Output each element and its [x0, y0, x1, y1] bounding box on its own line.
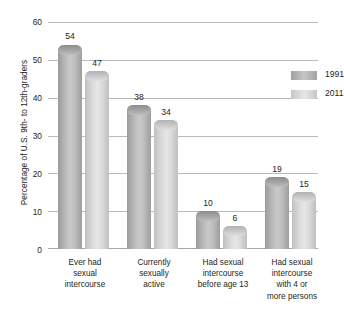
bar-value-label-1991-g3: 10	[193, 198, 223, 208]
x-axis-label-line: active	[114, 279, 194, 290]
x-axis-label-line: before age 13	[183, 279, 263, 290]
bar-value-label-2011-g2: 34	[151, 107, 181, 117]
x-axis-label-line: Currently	[114, 257, 194, 268]
bar-body	[127, 110, 151, 249]
bar-value-label-2011-g3: 6	[220, 213, 250, 223]
bar-2011-had-sexual-intercourse-with-4-or-more-persons	[292, 192, 316, 249]
legend-swatch-2011	[291, 90, 317, 99]
x-axis-label-line: sexual	[45, 268, 125, 279]
bar-body	[265, 182, 289, 249]
y-tick-label-30: 30	[20, 131, 42, 141]
x-axis-label-line: more persons	[252, 291, 332, 302]
bar-cap	[196, 211, 220, 221]
bar-1991-had-sexual-intercourse-before-age-13	[196, 211, 220, 249]
plot-area: 54 47 38 34 10 6 19 15 1991 2011	[48, 22, 318, 249]
bar-value-label-1991-g1: 54	[55, 31, 85, 41]
y-tick-label-20: 20	[20, 169, 42, 179]
x-axis-label-line: intercourse	[252, 268, 332, 279]
legend-swatch-1991	[291, 71, 317, 80]
bar-1991-had-sexual-intercourse-with-4-or-more-persons	[265, 177, 289, 249]
x-axis-label-had-sexual-intercourse-with-4-or-more-persons: Had sexual intercourse with 4 or more pe…	[252, 257, 332, 302]
bar-value-label-2011-g1: 47	[82, 58, 112, 68]
bar-cap	[223, 226, 247, 236]
bar-body	[85, 76, 109, 249]
legend-label-2011: 2011	[325, 88, 343, 98]
y-tick-label-40: 40	[20, 93, 42, 103]
bar-cap	[265, 177, 289, 187]
y-tick-label-0: 0	[20, 245, 42, 255]
x-axis-label-line: intercourse	[183, 268, 263, 279]
bar-cap	[292, 192, 316, 202]
x-axis-label-line: sexually	[114, 268, 194, 279]
bar-cap	[85, 71, 109, 81]
bar-value-label-2011-g4: 15	[289, 179, 319, 189]
y-tick-label-10: 10	[20, 207, 42, 217]
bar-2011-ever-had-sexual-intercourse	[85, 71, 109, 249]
bar-cap	[127, 105, 151, 115]
bar-value-label-1991-g4: 19	[262, 164, 292, 174]
legend-label-1991: 1991	[325, 69, 344, 79]
bar-body	[58, 50, 82, 249]
x-axis-label-line: Had sexual	[252, 257, 332, 268]
x-axis-label-currently-sexually-active: Currently sexually active	[114, 257, 194, 291]
gridline-60	[48, 22, 318, 23]
bar-1991-currently-sexually-active	[127, 105, 151, 249]
x-axis-label-line: Had sexual	[183, 257, 263, 268]
bar-1991-ever-had-sexual-intercourse	[58, 45, 82, 249]
bar-cap	[154, 120, 178, 130]
x-axis-label-had-sexual-intercourse-before-age-13: Had sexual intercourse before age 13	[183, 257, 263, 291]
bar-body	[154, 125, 178, 249]
bar-value-label-1991-g2: 38	[124, 92, 154, 102]
bar-cap	[58, 45, 82, 55]
bar-2011-currently-sexually-active	[154, 120, 178, 249]
x-axis-label-ever-had-sexual-intercourse: Ever had sexual intercourse	[45, 257, 125, 291]
x-axis-label-line: Ever had	[45, 257, 125, 268]
y-tick-label-50: 50	[20, 55, 42, 65]
y-tick-label-60: 60	[20, 17, 42, 27]
x-axis-label-line: intercourse	[45, 279, 125, 290]
bar-body	[196, 216, 220, 249]
x-axis-label-line: with 4 or	[252, 279, 332, 290]
bar-2011-had-sexual-intercourse-before-age-13	[223, 226, 247, 249]
bar-body	[292, 197, 316, 249]
